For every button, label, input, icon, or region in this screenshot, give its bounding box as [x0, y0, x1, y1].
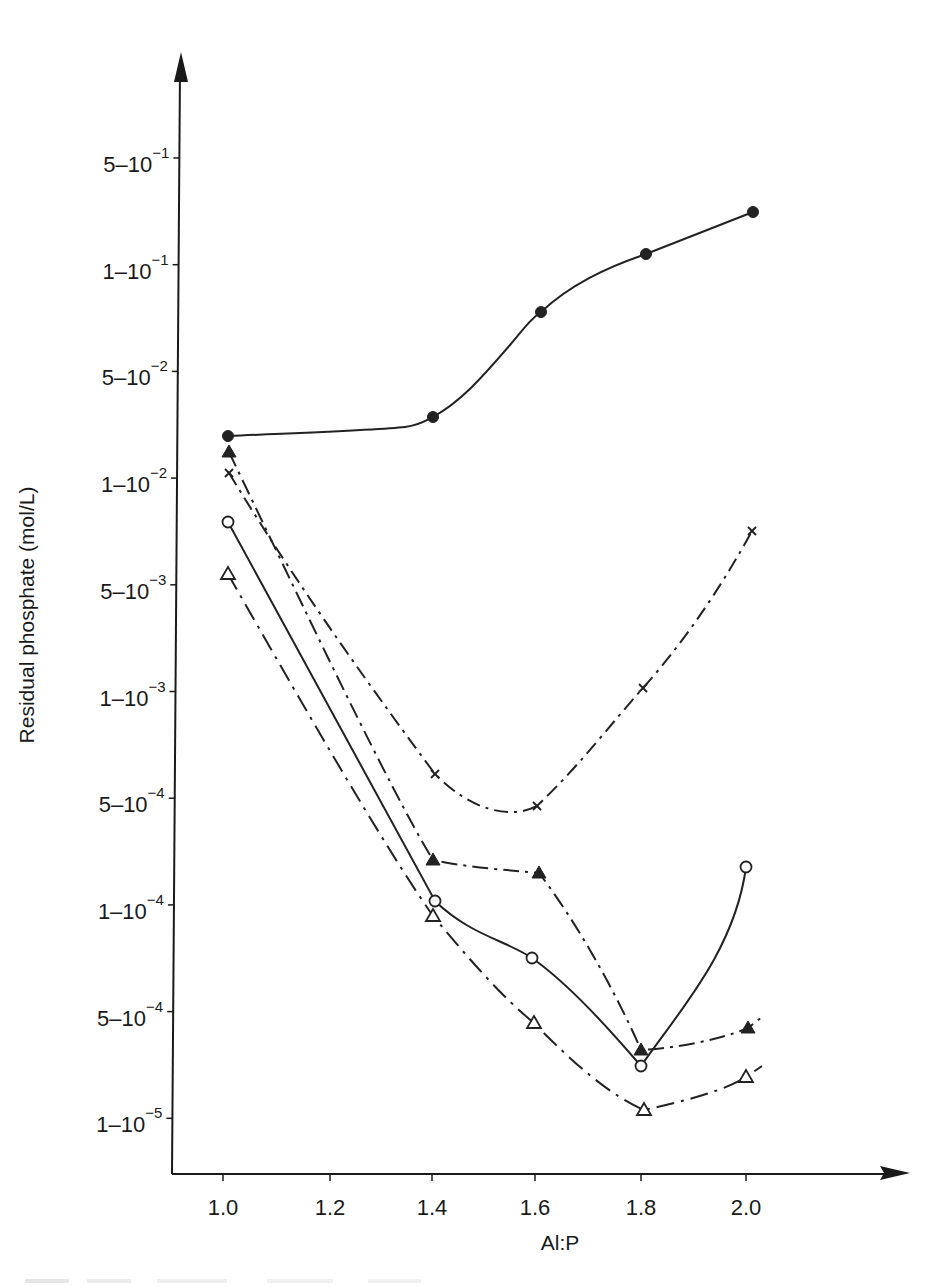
x-tick-label: 1.8 — [626, 1195, 657, 1220]
series-line — [229, 452, 762, 1050]
cross-marker-icon — [533, 802, 541, 810]
series-open-triangle — [221, 567, 762, 1115]
open-triangle-marker-icon — [221, 567, 235, 579]
y-tick-label: 1–10−3 — [99, 678, 165, 711]
cross-marker-icon — [639, 684, 647, 692]
series-layer — [221, 207, 762, 1116]
cross-marker-icon — [431, 770, 439, 778]
chart: 5–10−11–10−15–10−21–10−25–10−31–10−35–10… — [0, 0, 945, 1287]
filled-triangle-marker-icon — [222, 445, 236, 457]
series-line — [228, 522, 746, 1066]
filled-circle-marker-icon — [748, 207, 759, 218]
series-open-circle — [223, 517, 752, 1072]
filled-triangle-marker-icon — [741, 1021, 755, 1033]
y-tick-label: 5–10−2 — [102, 357, 168, 390]
y-ticks: 5–10−11–10−15–10−21–10−25–10−31–10−35–10… — [96, 144, 179, 1137]
y-tick-label: 5–10−4 — [97, 998, 163, 1031]
x-axis-arrow-icon — [880, 1166, 910, 1180]
y-tick-label: 1–10−1 — [103, 251, 169, 284]
cross-marker-icon — [225, 469, 233, 477]
open-circle-marker-icon — [223, 517, 234, 528]
y-axis-arrow-icon — [174, 52, 188, 82]
series-filled-circle — [223, 207, 759, 442]
series-filled-triangle — [222, 445, 762, 1055]
y-tick-label: 1–10−2 — [101, 464, 167, 497]
x-tick-label: 1.2 — [315, 1195, 346, 1220]
x-tick-label: 2.0 — [731, 1195, 762, 1220]
x-tick-label: 1.6 — [520, 1195, 551, 1220]
open-circle-marker-icon — [527, 953, 538, 964]
series-line — [228, 212, 753, 436]
filled-circle-marker-icon — [536, 307, 547, 318]
series-cross — [225, 469, 756, 812]
x-tick-label: 1.4 — [417, 1195, 448, 1220]
open-circle-marker-icon — [636, 1061, 647, 1072]
y-tick-label: 1–10−5 — [96, 1104, 162, 1137]
x-ticks: 1.01.21.41.61.82.0 — [208, 1174, 762, 1220]
y-tick-label: 1–10−4 — [98, 891, 164, 924]
filled-triangle-marker-icon — [634, 1043, 648, 1055]
axes — [172, 52, 910, 1180]
y-tick-label: 5–10−3 — [100, 571, 166, 604]
open-circle-marker-icon — [430, 896, 441, 907]
open-triangle-marker-icon — [739, 1070, 753, 1082]
filled-circle-marker-icon — [428, 412, 439, 423]
x-axis-title: Al:P — [541, 1231, 580, 1254]
cross-marker-icon — [748, 527, 756, 535]
y-axis — [172, 70, 180, 1174]
y-axis-title: Residual phosphate (mol/L) — [15, 487, 38, 744]
open-triangle-marker-icon — [426, 909, 440, 921]
y-tick-label: 5–10−1 — [103, 144, 169, 177]
series-line — [229, 473, 752, 812]
x-tick-label: 1.0 — [208, 1195, 239, 1220]
filled-triangle-marker-icon — [426, 853, 440, 865]
y-tick-label: 5–10−4 — [99, 784, 165, 817]
filled-circle-marker-icon — [223, 431, 234, 442]
caption-cutoff — [25, 1279, 465, 1283]
filled-circle-marker-icon — [641, 249, 652, 260]
series-line — [228, 574, 762, 1110]
open-circle-marker-icon — [741, 862, 752, 873]
